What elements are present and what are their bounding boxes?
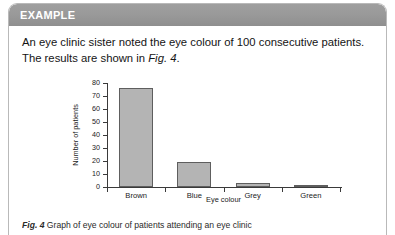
y-axis-tick-label: 80 (92, 78, 100, 87)
example-body: An eye clinic sister noted the eye colou… (9, 26, 386, 205)
example-header-title: EXAMPLE (20, 9, 75, 21)
y-axis-tick-label: 10 (92, 169, 100, 178)
figure-reference: Fig. 4 (148, 52, 176, 64)
x-axis-tick (165, 188, 166, 192)
y-axis-tick: 10 (103, 174, 107, 175)
y-axis-tick: 20 (103, 161, 107, 162)
bar-blue (177, 162, 211, 187)
bar-chart: Number of patients 01020304050607080Brow… (22, 73, 373, 205)
y-axis-tick: 40 (103, 135, 107, 136)
y-axis-tick: 60 (103, 109, 107, 110)
bar-green (294, 185, 328, 187)
y-axis-tick-label: 60 (92, 104, 100, 113)
example-box: EXAMPLE An eye clinic sister noted the e… (8, 3, 387, 228)
y-axis-tick-label: 70 (92, 91, 100, 100)
x-axis-tick (340, 188, 341, 192)
intro-text-after: . (176, 52, 179, 64)
bar-brown (119, 88, 153, 187)
figure-caption-text: Graph of eye colour of patients attendin… (44, 220, 251, 228)
x-axis-tick (224, 188, 225, 192)
y-axis-tick-label: 50 (92, 117, 100, 126)
y-axis-tick: 70 (103, 96, 107, 97)
bar-grey (236, 183, 270, 187)
figure-caption-label: Fig. 4 (22, 220, 44, 228)
x-axis-tick (107, 188, 108, 192)
plot-area: 01020304050607080BrownBlueGreyGreen (107, 83, 340, 188)
y-axis-tick-label: 0 (96, 182, 100, 191)
x-axis-title: Eye colour (107, 195, 340, 204)
y-axis-tick-label: 40 (92, 130, 100, 139)
y-axis-line (107, 83, 108, 188)
example-header: EXAMPLE (9, 4, 386, 26)
y-axis-title: Number of patients (71, 3, 81, 89)
y-axis-tick: 30 (103, 148, 107, 149)
y-axis-title-text: Number of patients (71, 89, 80, 181)
y-axis-tick-label: 20 (92, 156, 100, 165)
figure-caption: Fig. 4 Graph of eye colour of patients a… (22, 220, 373, 228)
y-axis-tick-label: 30 (92, 143, 100, 152)
x-axis-tick (282, 188, 283, 192)
y-axis-tick: 80 (103, 83, 107, 84)
chart-area: Number of patients 01020304050607080Brow… (74, 75, 386, 205)
y-axis-tick: 50 (103, 122, 107, 123)
